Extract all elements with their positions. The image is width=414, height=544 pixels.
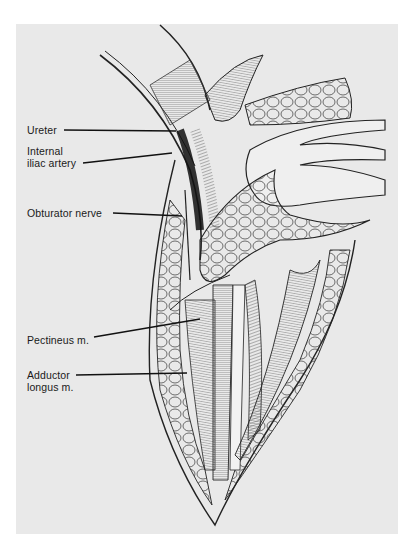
- label-obturator-nerve-line-1: Obturator nerve: [27, 207, 102, 219]
- leader-line-internal-iliac-artery: [83, 153, 172, 163]
- label-pectineus: Pectineus m.: [27, 334, 89, 346]
- label-ureter-line-1: Ureter: [27, 124, 57, 136]
- label-internal-iliac-artery-line-1: Internal: [27, 145, 76, 157]
- label-adductor-longus: Adductor longus m.: [27, 369, 73, 393]
- label-obturator-nerve: Obturator nerve: [27, 207, 102, 219]
- obturator-nerve-line: [185, 190, 190, 280]
- label-ureter: Ureter: [27, 124, 57, 136]
- label-adductor-longus-line-2: longus m.: [27, 381, 73, 393]
- label-adductor-longus-line-1: Adductor: [27, 369, 73, 381]
- label-internal-iliac-artery: Internal iliac artery: [27, 145, 76, 169]
- leader-line-ureter: [64, 130, 176, 131]
- leader-line-pectineus: [94, 319, 200, 337]
- label-pectineus-line-1: Pectineus m.: [27, 334, 89, 346]
- anatomy-illustration: [0, 0, 414, 544]
- label-internal-iliac-artery-line-2: iliac artery: [27, 157, 76, 169]
